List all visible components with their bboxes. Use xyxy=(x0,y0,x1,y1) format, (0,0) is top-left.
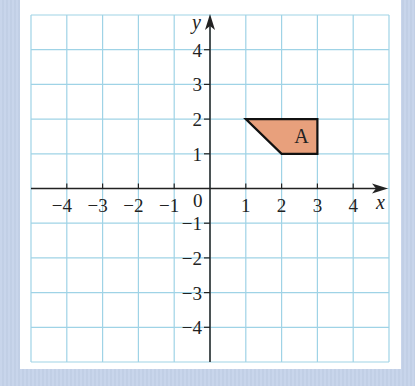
axes xyxy=(31,14,388,362)
y-tick-label: 4 xyxy=(193,40,203,61)
coordinate-grid: A −4−3−2−112344321−1−2−3−4 x y 0 xyxy=(0,0,415,386)
x-tick-label: −1 xyxy=(159,195,179,216)
x-tick-label: −3 xyxy=(87,195,107,216)
x-axis-label: x xyxy=(375,191,385,213)
y-tick-label: −3 xyxy=(182,283,202,304)
x-tick-label: 4 xyxy=(348,195,358,216)
x-tick-label: 1 xyxy=(241,195,251,216)
origin-label: 0 xyxy=(193,190,203,211)
x-tick-label: −2 xyxy=(123,195,143,216)
y-axis-label: y xyxy=(190,11,201,34)
y-tick-label: −1 xyxy=(182,213,202,234)
y-tick-label: 1 xyxy=(193,144,203,165)
y-tick-label: −4 xyxy=(182,317,203,338)
x-tick-label: 2 xyxy=(277,195,287,216)
x-tick-label: −4 xyxy=(52,195,73,216)
y-tick-label: 3 xyxy=(193,74,203,95)
shape-a-label: A xyxy=(294,125,309,147)
x-tick-label: 3 xyxy=(313,195,323,216)
y-tick-label: 2 xyxy=(193,109,203,130)
y-tick-label: −2 xyxy=(182,248,202,269)
